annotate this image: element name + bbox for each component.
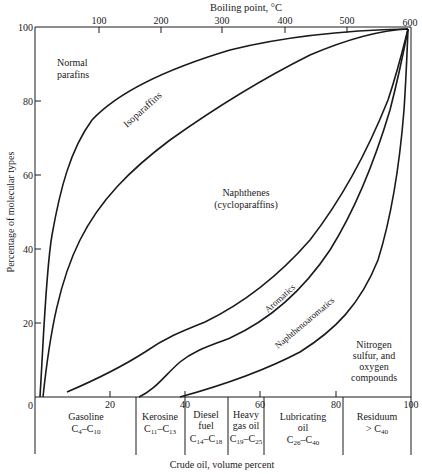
top-tick-labels: 100 200 300 400 500 600 — [92, 15, 418, 28]
svg-text:400: 400 — [278, 15, 293, 26]
svg-text:0: 0 — [28, 400, 33, 411]
fraction-residuum-1: Residuum — [357, 411, 398, 422]
label-normal-1: Normal — [57, 57, 88, 68]
fraction-residuum-2: > C40 — [366, 423, 388, 436]
boundary-curves — [40, 29, 408, 397]
fraction-lube-carbon: C26–C40 — [287, 434, 320, 447]
top-axis-title: Boiling point, °C — [210, 2, 282, 13]
svg-text:300: 300 — [215, 15, 230, 26]
svg-text:100: 100 — [92, 15, 107, 26]
svg-text:100: 100 — [18, 22, 33, 33]
fraction-hgo-2: gas oil — [233, 420, 260, 431]
fraction-diesel-1: Diesel — [193, 409, 219, 420]
fraction-diesel-carbon: C14–C18 — [190, 433, 223, 446]
fraction-diesel-2: fuel — [198, 420, 214, 431]
svg-text:60: 60 — [23, 170, 33, 181]
label-aromatics: Aromatics — [263, 282, 298, 315]
svg-text:20: 20 — [105, 399, 115, 410]
svg-text:80: 80 — [331, 399, 341, 410]
label-isoparaffins: Isoparaffins — [121, 89, 164, 129]
chart-svg: Boiling point, °C 100 200 300 400 500 60… — [0, 0, 422, 474]
curve-naphthenes-aromatics — [67, 29, 408, 392]
y-tick-labels: 100 80 60 40 20 0 — [18, 22, 33, 411]
y-axis-title: Percentage of molecular types — [5, 152, 16, 273]
svg-text:600: 600 — [403, 17, 418, 28]
fraction-gasoline-carbon: C4–C10 — [72, 423, 101, 436]
fraction-kerosine: Kerosine — [142, 411, 179, 422]
fraction-lube-1: Lubricating — [280, 411, 327, 422]
label-nso-1: Nitrogen — [356, 339, 392, 350]
fraction-hgo-carbon: C19–C25 — [230, 433, 263, 446]
svg-text:500: 500 — [340, 15, 355, 26]
label-naphthenoaromatics: Naphthenoaromatics — [273, 295, 337, 351]
fraction-gasoline: Gasoline — [68, 411, 104, 422]
x-tick-labels: 20 40 60 80 100 — [105, 399, 419, 410]
svg-text:80: 80 — [23, 96, 33, 107]
label-nso-2: sulfur, and — [353, 350, 395, 361]
fraction-lube-2: oil — [298, 422, 309, 433]
svg-text:200: 200 — [154, 15, 169, 26]
y-ticks — [35, 101, 41, 323]
fraction-kerosine-carbon: C11–C13 — [144, 423, 177, 436]
top-ticks — [99, 27, 347, 33]
curve-iso-naphthenes — [43, 29, 408, 397]
fraction-labels: Gasoline C4–C10 Kerosine C11–C13 Diesel … — [68, 409, 397, 447]
fraction-hgo-1: Heavy — [233, 409, 259, 420]
label-normal-2: parafins — [57, 69, 89, 80]
label-nso-3: oxygen — [359, 361, 388, 372]
label-naphthenes-1: Naphthenes — [222, 187, 269, 198]
label-nso-4: compounds — [351, 372, 397, 383]
svg-text:20: 20 — [23, 318, 33, 329]
svg-text:40: 40 — [23, 244, 33, 255]
x-axis-title: Crude oil, volume percent — [170, 459, 275, 470]
label-naphthenes-2: (cycloparaffins) — [214, 199, 278, 211]
